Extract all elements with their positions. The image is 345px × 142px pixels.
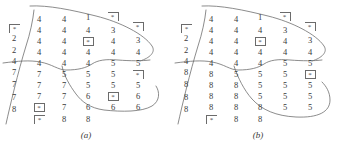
boundary-curve-a-3 <box>3 60 150 70</box>
grid-value-b-c4r2: 4 <box>253 26 267 35</box>
grid-value-b-c2r6: 8 <box>204 70 218 79</box>
grid-value-a-c2r6: 7 <box>32 70 46 79</box>
grid-value-a-c3r3: 4 <box>57 37 71 46</box>
grid-value-b-c5r2: 3 <box>278 26 292 35</box>
grid-value-a-c1r2: 2 <box>7 34 21 43</box>
grid-value-b-c3r8: 8 <box>229 92 243 101</box>
grid-value-b-c4r6: 5 <box>253 70 267 79</box>
grid-value-a-c5r6: 5 <box>106 70 120 79</box>
panel-a: *224777844444777**444445777814*4455668*3… <box>0 0 172 142</box>
grid-value-b-c3r2: 4 <box>229 26 243 35</box>
grid-value-a-c1r5: 7 <box>7 68 21 77</box>
grid-value-a-c1r6: 7 <box>7 80 21 89</box>
grid-value-b-c3r3: 4 <box>229 37 243 46</box>
grid-value-b-c2r7: 8 <box>204 81 218 90</box>
grid-value-a-c4r10: 8 <box>81 115 95 124</box>
grid-value-b-c1r5: 8 <box>179 68 193 77</box>
marker-star-a-c4r3: * <box>83 37 94 46</box>
grid-value-b-c3r6: 5 <box>229 70 243 79</box>
marker-star-a-c2r10: * <box>34 115 45 124</box>
grid-value-a-c6r8: 6 <box>131 103 145 112</box>
panel-b: *2248888444448888*444445888814*4455588*3… <box>172 0 344 142</box>
grid-value-a-c1r3: 2 <box>7 46 21 55</box>
grid-value-b-c1r8: 8 <box>179 105 193 114</box>
grid-value-b-c6r7: 5 <box>303 92 317 101</box>
marker-star-b-c4r3: * <box>255 37 266 46</box>
grid-value-a-c1r8: 8 <box>7 105 21 114</box>
grid-value-a-c2r7: 7 <box>32 81 46 90</box>
grid-value-b-c3r1: 4 <box>229 15 243 24</box>
grid-value-a-c3r9: 7 <box>57 103 71 112</box>
grid-value-a-c4r9: 6 <box>81 103 95 112</box>
grid-value-a-c5r7: 5 <box>106 81 120 90</box>
grid-value-b-c3r9: 8 <box>229 103 243 112</box>
grid-value-a-c1r7: 7 <box>7 93 21 102</box>
grid-value-b-c2r8: 8 <box>204 92 218 101</box>
boundary-curve-b-3 <box>175 60 322 70</box>
grid-value-a-c3r1: 4 <box>57 15 71 24</box>
grid-value-a-c1r4: 4 <box>7 57 21 66</box>
grid-value-b-c2r9: 8 <box>204 103 218 112</box>
grid-value-b-c3r10: 8 <box>229 115 243 124</box>
grid-value-a-c4r8: 6 <box>81 92 95 101</box>
grid-value-b-c6r4: 5 <box>303 59 317 68</box>
grid-value-a-c3r8: 7 <box>57 92 71 101</box>
grid-value-b-c5r5: 5 <box>278 59 292 68</box>
grid-value-a-c3r5: 4 <box>57 59 71 68</box>
grid-value-b-c6r8: 5 <box>303 103 317 112</box>
grid-value-b-c4r8: 5 <box>253 92 267 101</box>
grid-value-a-c2r2: 4 <box>32 26 46 35</box>
grid-value-a-c4r6: 5 <box>81 70 95 79</box>
grid-value-a-c5r9: 6 <box>106 103 120 112</box>
grid-value-b-c1r3: 2 <box>179 46 193 55</box>
grid-value-b-c6r6: 5 <box>303 81 317 90</box>
grid-value-b-c2r5: 4 <box>204 59 218 68</box>
grid-value-a-c2r4: 4 <box>32 48 46 57</box>
grid-value-b-c4r4: 4 <box>253 48 267 57</box>
grid-value-a-c3r2: 4 <box>57 26 71 35</box>
grid-value-a-c4r7: 5 <box>81 81 95 90</box>
marker-star-a-c2r9: * <box>34 103 45 112</box>
grid-value-b-c5r4: 4 <box>278 48 292 57</box>
grid-value-b-c4r5: 4 <box>253 59 267 68</box>
grid-value-a-c5r5: 5 <box>106 59 120 68</box>
grid-value-b-c5r6: 5 <box>278 70 292 79</box>
grid-value-a-c4r5: 4 <box>81 59 95 68</box>
grid-value-b-c3r5: 4 <box>229 59 243 68</box>
grid-value-b-c5r9: 5 <box>278 103 292 112</box>
panel-b-caption: (b) <box>172 130 344 140</box>
grid-value-b-c5r7: 5 <box>278 81 292 90</box>
grid-value-b-c5r8: 5 <box>278 92 292 101</box>
grid-value-a-c2r3: 4 <box>32 37 46 46</box>
grid-value-a-c5r3: 4 <box>106 37 120 46</box>
marker-star-b-c6r5: * <box>305 70 316 79</box>
grid-value-b-c2r2: 4 <box>204 26 218 35</box>
grid-value-b-c2r1: 4 <box>204 15 218 24</box>
grid-value-a-c3r6: 5 <box>57 70 71 79</box>
grid-value-b-c4r10: 8 <box>253 115 267 124</box>
grid-value-a-c4r4: 4 <box>81 48 95 57</box>
grid-value-b-c3r7: 8 <box>229 81 243 90</box>
grid-value-a-c6r4: 5 <box>131 59 145 68</box>
grid-value-a-c2r1: 4 <box>32 15 46 24</box>
figure-root: *224777844444777**444445777814*4455668*3… <box>0 0 345 142</box>
grid-value-b-c2r4: 4 <box>204 48 218 57</box>
grid-value-a-c3r10: 8 <box>57 115 71 124</box>
grid-value-b-c4r1: 1 <box>253 13 267 22</box>
grid-value-b-c6r3: 4 <box>303 48 317 57</box>
marker-star-b-c5r1: * <box>280 12 291 21</box>
grid-value-b-c5r3: 4 <box>278 37 292 46</box>
grid-value-a-c6r3: 4 <box>131 48 145 57</box>
grid-value-b-c1r7: 8 <box>179 93 193 102</box>
marker-star-b-c6r1: * <box>305 22 316 31</box>
grid-value-a-c3r4: 4 <box>57 48 71 57</box>
grid-value-a-c4r1: 1 <box>81 13 95 22</box>
grid-value-b-c6r2: 3 <box>303 36 317 45</box>
grid-value-b-c2r3: 4 <box>204 37 218 46</box>
grid-value-b-c1r4: 4 <box>179 57 193 66</box>
grid-value-b-c3r4: 4 <box>229 48 243 57</box>
marker-star-a-c5r1: * <box>108 12 119 21</box>
marker-star-a-c6r5: * <box>133 70 144 79</box>
grid-value-a-c5r2: 3 <box>106 26 120 35</box>
marker-star-a-c5r8: * <box>108 92 119 101</box>
